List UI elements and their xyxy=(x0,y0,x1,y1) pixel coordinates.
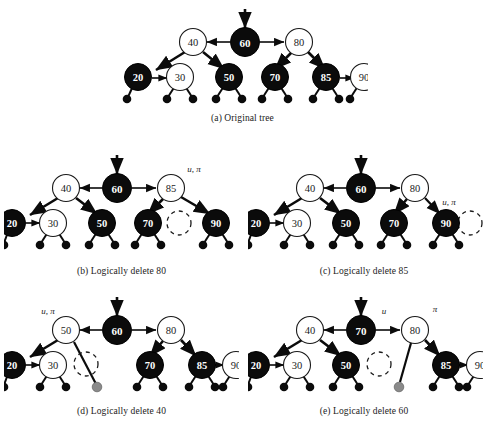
node-70-d-label: 70 xyxy=(145,360,156,371)
node-80-d-label: 80 xyxy=(166,325,177,336)
node-70-d[interactable]: 70 xyxy=(137,352,164,379)
figure-container: 60 40 80 20 30 50 70 85 xyxy=(0,0,485,436)
tree-diagram-c: 60 40 80 20 30 50 70 90 u, π xyxy=(248,152,483,256)
edge-80-85-e xyxy=(425,340,440,356)
deleted-node-ghost-c xyxy=(458,211,482,235)
tree-diagram-d: 60 50 80 20 30 70 85 90 u, π xyxy=(4,294,239,398)
node-30-a-label: 30 xyxy=(175,72,186,83)
node-90-d[interactable]: 90 xyxy=(223,352,240,379)
node-80-e-label: 80 xyxy=(410,325,421,336)
nil-leaves-b xyxy=(4,241,233,250)
node-60-d-label: 60 xyxy=(112,325,124,337)
node-40-c-label: 40 xyxy=(305,183,316,194)
nil-leaves-e xyxy=(248,383,483,392)
nil-leaves-a xyxy=(123,95,355,104)
node-20-a[interactable]: 20 xyxy=(125,64,152,91)
node-70-b-label: 70 xyxy=(143,218,154,229)
node-60-d[interactable]: 60 xyxy=(103,316,132,345)
edge-80-90-c xyxy=(425,198,440,214)
node-90-a-label: 90 xyxy=(359,72,368,83)
edge-40-50-e xyxy=(320,340,341,356)
caption-c: (c) Logically delete 85 xyxy=(243,266,485,276)
node-60-a[interactable]: 60 xyxy=(231,28,260,57)
annotation-pi-e: π xyxy=(433,304,438,314)
node-20-e-label: 20 xyxy=(251,360,262,371)
node-80-c-label: 80 xyxy=(410,183,421,194)
deleted-node-ghost-b xyxy=(167,211,191,235)
node-30-d-label: 30 xyxy=(48,360,59,371)
node-20-c[interactable]: 20 xyxy=(248,210,270,237)
node-60-b[interactable]: 60 xyxy=(103,174,132,203)
nil-leaves-c xyxy=(248,241,463,250)
node-50-e-label: 50 xyxy=(341,360,352,371)
node-50-b[interactable]: 50 xyxy=(89,210,116,237)
edge-40-50-c xyxy=(320,198,341,214)
caption-b: (b) Logically delete 80 xyxy=(0,266,243,276)
node-40-b-label: 40 xyxy=(61,183,72,194)
caption-e: (e) Logically delete 60 xyxy=(243,406,485,416)
node-90-b-label: 90 xyxy=(211,218,222,229)
node-20-b[interactable]: 20 xyxy=(4,210,26,237)
node-90-e[interactable]: 90 xyxy=(467,352,484,379)
node-30-d[interactable]: 30 xyxy=(40,352,67,379)
node-50-d-label: 50 xyxy=(61,325,72,336)
node-70-c[interactable]: 70 xyxy=(381,210,408,237)
node-90-c[interactable]: 90 xyxy=(433,210,460,237)
tree-diagram-e: 70 40 80 20 30 50 85 90 u xyxy=(248,294,483,398)
node-60-a-label: 60 xyxy=(240,37,252,49)
node-50-d[interactable]: 50 xyxy=(53,317,80,344)
node-90-d-label: 90 xyxy=(231,360,239,371)
node-70-e[interactable]: 70 xyxy=(347,316,376,345)
node-20-e[interactable]: 20 xyxy=(248,352,270,379)
node-30-c-label: 30 xyxy=(292,218,303,229)
node-50-c[interactable]: 50 xyxy=(333,210,360,237)
node-40-a[interactable]: 40 xyxy=(180,29,207,56)
node-80-a-label: 80 xyxy=(294,37,305,48)
node-30-e[interactable]: 30 xyxy=(284,352,311,379)
node-30-c[interactable]: 30 xyxy=(284,210,311,237)
node-50-a[interactable]: 50 xyxy=(216,64,243,91)
node-85-a[interactable]: 85 xyxy=(313,64,340,91)
annotation-u-pi-b: u, π xyxy=(187,164,201,174)
node-60-c[interactable]: 60 xyxy=(347,174,376,203)
node-40-b[interactable]: 40 xyxy=(53,175,80,202)
node-85-b-label: 85 xyxy=(166,183,177,194)
node-20-d[interactable]: 20 xyxy=(4,352,26,379)
nil-leaves-d xyxy=(4,383,239,392)
annotation-u-pi-d: u, π xyxy=(41,306,55,316)
node-80-a[interactable]: 80 xyxy=(286,29,313,56)
node-60-c-label: 60 xyxy=(356,183,368,195)
node-70-a-label: 70 xyxy=(270,72,281,83)
node-40-e[interactable]: 40 xyxy=(297,317,324,344)
node-70-e-label: 70 xyxy=(356,325,368,337)
edge-85-90-b xyxy=(181,197,210,214)
node-50-e[interactable]: 50 xyxy=(333,352,360,379)
edge-50-grayleaf-d xyxy=(74,342,96,384)
detached-nil-leaf-d xyxy=(92,382,102,392)
node-85-e[interactable]: 85 xyxy=(433,352,460,379)
node-30-a[interactable]: 30 xyxy=(167,64,194,91)
node-80-c[interactable]: 80 xyxy=(402,175,429,202)
deleted-node-ghost-e xyxy=(367,352,391,376)
node-80-e[interactable]: 80 xyxy=(402,317,429,344)
node-30-b-label: 30 xyxy=(48,218,59,229)
node-40-a-label: 40 xyxy=(188,37,199,48)
annotation-u-e: u xyxy=(382,306,387,316)
node-70-a[interactable]: 70 xyxy=(262,64,289,91)
node-85-b[interactable]: 85 xyxy=(158,175,185,202)
edge-80-grayleaf-e xyxy=(400,343,411,382)
node-50-a-label: 50 xyxy=(224,72,235,83)
node-60-b-label: 60 xyxy=(112,183,124,195)
node-90-c-label: 90 xyxy=(441,218,452,229)
node-50-c-label: 50 xyxy=(341,218,352,229)
node-80-d[interactable]: 80 xyxy=(158,317,185,344)
node-85-d[interactable]: 85 xyxy=(189,352,216,379)
node-40-e-label: 40 xyxy=(305,325,316,336)
node-90-b[interactable]: 90 xyxy=(203,210,230,237)
node-90-a[interactable]: 90 xyxy=(351,64,369,91)
node-40-c[interactable]: 40 xyxy=(297,175,324,202)
node-30-b[interactable]: 30 xyxy=(40,210,67,237)
caption-a: (a) Original tree xyxy=(0,113,485,123)
edge-40-50-b xyxy=(76,198,97,214)
node-70-b[interactable]: 70 xyxy=(135,210,162,237)
